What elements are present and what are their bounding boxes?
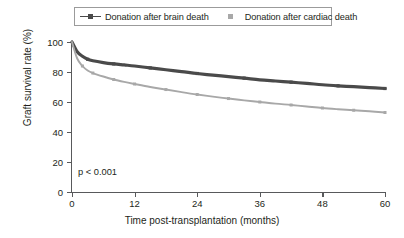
x-tick-label: 60	[380, 198, 391, 209]
x-tick	[197, 193, 198, 197]
censor-marker	[164, 88, 167, 91]
legend-square-icon	[88, 14, 93, 19]
legend-square-icon	[228, 14, 233, 19]
legend-entry-brain-death: Donation after brain death	[80, 12, 209, 22]
x-tick	[322, 193, 323, 197]
censor-marker	[81, 65, 84, 68]
y-tick	[67, 102, 71, 103]
x-tick	[135, 193, 136, 197]
censor-marker	[321, 107, 324, 110]
curve-brain-death	[72, 42, 387, 90]
survival-chart: Donation after brain death Donation afte…	[0, 0, 404, 238]
x-tick-label: 0	[69, 198, 74, 209]
y-tick-label: 20	[33, 157, 63, 168]
censor-marker	[336, 84, 339, 87]
y-tick	[67, 192, 71, 193]
legend-label-cardiac-death: Donation after cardiac death	[245, 12, 358, 22]
plot-area	[72, 42, 385, 192]
censor-marker	[91, 72, 94, 75]
x-axis-title: Time post-transplantation (months)	[0, 215, 404, 226]
censor-marker	[86, 58, 89, 61]
y-tick	[67, 132, 71, 133]
y-tick	[67, 162, 71, 163]
censor-marker	[196, 93, 199, 96]
y-tick-label: 100	[33, 37, 63, 48]
y-axis-tick-labels: 020406080100	[33, 0, 63, 238]
chart-legend: Donation after brain death Donation afte…	[74, 7, 332, 26]
x-axis-line	[71, 192, 386, 193]
x-tick-label: 48	[317, 198, 328, 209]
legend-marker-cardiac-death	[220, 12, 241, 21]
y-tick-label: 60	[33, 97, 63, 108]
x-tick	[385, 193, 386, 197]
x-tick	[260, 193, 261, 197]
censor-marker	[112, 62, 115, 65]
censor-marker	[290, 81, 293, 84]
y-axis-title: Graft survival rate (%)	[22, 0, 33, 158]
x-tick-label: 12	[129, 198, 140, 209]
x-tick	[72, 193, 73, 197]
censor-marker	[227, 97, 230, 100]
censor-marker	[384, 111, 387, 114]
y-tick-label: 80	[33, 67, 63, 78]
y-tick	[67, 72, 71, 73]
censor-marker	[290, 104, 293, 107]
censor-marker	[133, 83, 136, 86]
y-tick-label: 40	[33, 127, 63, 138]
censor-marker	[383, 87, 386, 90]
y-tick-label: 0	[33, 187, 63, 198]
censor-marker	[258, 101, 261, 104]
y-tick	[67, 42, 71, 43]
censor-marker	[352, 109, 355, 112]
legend-marker-brain-death	[80, 12, 101, 21]
x-tick-label: 24	[192, 198, 203, 209]
legend-entry-cardiac-death: Donation after cardiac death	[220, 12, 358, 22]
censor-marker	[112, 78, 115, 81]
censor-marker	[149, 66, 152, 69]
x-tick-label: 36	[255, 198, 266, 209]
legend-label-brain-death: Donation after brain death	[105, 12, 209, 22]
censor-marker	[243, 77, 246, 80]
survival-curves	[72, 42, 385, 192]
censor-marker	[196, 72, 199, 75]
